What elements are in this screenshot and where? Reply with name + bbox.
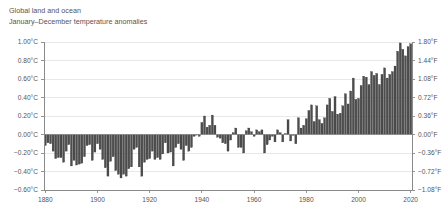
bar-year-1954	[237, 135, 239, 148]
x-tick-label: 1900	[90, 196, 105, 203]
bar-year-1891	[73, 135, 75, 161]
x-tick-label: 1960	[247, 196, 262, 203]
chart-title: Global land and ocean	[9, 5, 147, 16]
chart-subtitle: January–December temperature anomalies	[9, 16, 147, 27]
bar-year-1998	[352, 78, 354, 134]
bar-year-1982	[311, 105, 313, 135]
bar-year-1888	[65, 135, 67, 152]
bar-year-1966	[269, 135, 271, 141]
y-tick-label-left: −0.60°C	[14, 186, 38, 193]
bar-year-1940	[201, 122, 203, 134]
bar-year-1881	[47, 135, 49, 143]
bar-year-1929	[172, 135, 174, 166]
bar-year-1898	[91, 135, 93, 161]
bar-year-1958	[248, 128, 250, 134]
y-tick-label-left: −0.20°C	[14, 149, 38, 156]
bar-year-1911	[125, 135, 127, 177]
bar-year-1910	[123, 135, 125, 175]
bar-year-1890	[70, 135, 72, 166]
bar-year-1961	[256, 130, 258, 135]
bar-year-1903	[104, 135, 106, 168]
bar-year-1987	[324, 118, 326, 135]
bar-year-2012	[389, 74, 391, 134]
y-tick-label-left: 0.60°C	[18, 75, 38, 82]
y-tick-label-left: 0.80°C	[18, 57, 38, 64]
bar-year-1956	[243, 135, 245, 154]
bar-year-1989	[329, 98, 331, 134]
x-tick-label: 2000	[351, 196, 366, 203]
bar-year-1985	[318, 120, 320, 135]
bar-year-1916	[138, 135, 140, 167]
bar-year-1894	[81, 135, 83, 164]
bar-year-1925	[162, 135, 164, 154]
bar-year-1912	[128, 135, 130, 169]
bar-year-1919	[146, 135, 148, 160]
bar-year-1995	[344, 94, 346, 135]
bar-year-1913	[130, 135, 132, 167]
bar-year-1904	[107, 135, 109, 177]
bar-year-2011	[386, 78, 388, 134]
bar-year-1907	[115, 135, 117, 171]
bar-year-1968	[274, 135, 276, 142]
bar-year-1978	[300, 128, 302, 134]
bar-year-1943	[209, 125, 211, 134]
bar-year-1980	[305, 119, 307, 135]
bar-year-1993	[339, 113, 341, 134]
bar-year-1883	[52, 135, 54, 152]
bar-year-1895	[83, 135, 85, 157]
bar-year-2010	[384, 68, 386, 135]
x-tick-label: 1980	[299, 196, 314, 203]
bar-year-1914	[133, 135, 135, 150]
bar-year-1917	[141, 135, 143, 177]
y-tick-label-left: −0.40°C	[14, 168, 38, 175]
y-tick-label-left: 0.40°C	[18, 94, 38, 101]
bar-year-1900	[96, 135, 98, 144]
bar-year-2019	[407, 47, 409, 135]
y-tick-label-right: 0.36°F	[418, 112, 438, 119]
y-tick-label-right: 0.00°F	[418, 131, 438, 138]
bar-year-1957	[245, 131, 247, 135]
bar-year-1984	[316, 106, 318, 135]
bar-year-1941	[203, 116, 205, 135]
bar-year-1927	[167, 135, 169, 154]
bar-year-1920	[149, 135, 151, 159]
bar-year-1977	[297, 118, 299, 135]
x-tick-label: 1940	[195, 196, 210, 203]
bar-year-1880	[44, 135, 46, 146]
y-tick-label-right: 0.72°F	[418, 94, 438, 101]
bar-year-1999	[355, 99, 357, 134]
bar-year-1949	[224, 135, 226, 144]
bar-year-2006	[373, 75, 375, 134]
bar-year-1924	[159, 135, 161, 160]
y-tick-label-right: −0.72°F	[418, 168, 441, 175]
bar-year-1935	[188, 135, 190, 152]
bar-year-1885	[57, 135, 59, 158]
bar-year-1983	[313, 122, 315, 135]
y-tick-label-right: 1.08°F	[418, 75, 438, 82]
bar-year-2016	[399, 43, 401, 135]
bar-year-1922	[154, 135, 156, 160]
chart-title-block: Global land and ocean January–December t…	[9, 5, 147, 27]
bar-year-1902	[102, 135, 104, 160]
bar-year-1933	[183, 135, 185, 161]
bar-year-1974	[290, 135, 292, 141]
bar-year-2020	[410, 44, 412, 135]
bar-year-1896	[86, 135, 88, 146]
bar-year-1994	[342, 106, 344, 135]
bar-year-1921	[151, 135, 153, 152]
bar-year-2018	[404, 56, 406, 135]
bar-year-1901	[99, 135, 101, 150]
bar-year-1964	[264, 135, 266, 154]
bar-year-1934	[185, 135, 187, 146]
y-tick-label-left: 0.00°C	[18, 131, 38, 138]
bar-year-1945	[214, 125, 216, 134]
bar-year-1953	[235, 128, 237, 134]
bar-year-1897	[89, 135, 91, 145]
bar-year-1887	[63, 135, 65, 163]
y-tick-label-right: −1.08°F	[418, 186, 441, 193]
bar-year-1923	[157, 135, 159, 158]
bar-year-2007	[376, 73, 378, 134]
bar-year-1915	[136, 135, 138, 148]
bar-year-1976	[295, 135, 297, 144]
chart-plot: 1.00°C0.80°C0.60°C0.40°C0.20°C0.00°C−0.2…	[0, 0, 446, 220]
